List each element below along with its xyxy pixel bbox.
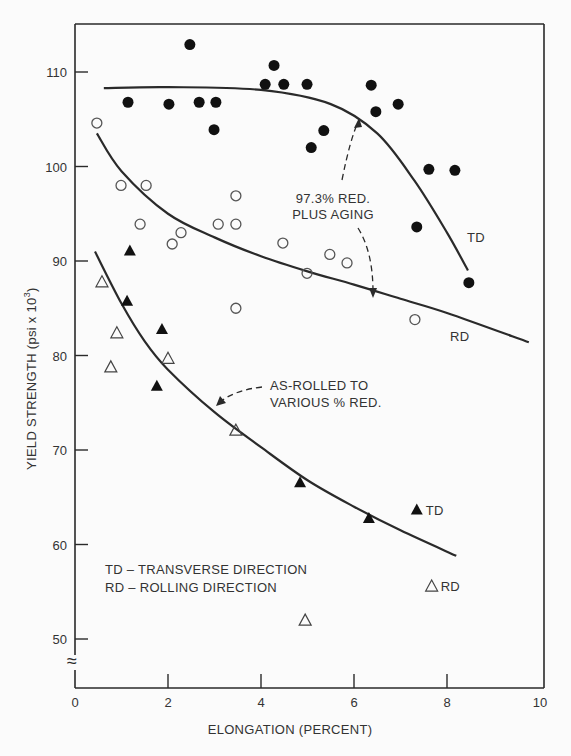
x-axis-label: ELONGATION (PERCENT) [208, 722, 373, 737]
x-tick-label: 2 [164, 695, 171, 710]
open-circle-marker [176, 228, 186, 238]
filled-circle-marker [269, 60, 280, 71]
legend-td: TD – TRANSVERSE DIRECTION [105, 562, 307, 577]
arrow-to-td-curve [342, 122, 358, 180]
filled-circle-marker [163, 99, 174, 110]
filled-circle-marker [306, 142, 317, 153]
annotation-aging-line2: PLUS AGING [292, 207, 374, 222]
filled-circle-marker [423, 164, 434, 175]
filled-circle-marker [184, 39, 195, 50]
filled-circle-marker [209, 124, 220, 135]
filled-triangle-marker [121, 295, 133, 306]
filled-triangle-marker [151, 380, 163, 391]
filled-circle-marker [393, 99, 404, 110]
filled-circle-marker [463, 277, 474, 288]
annotation-asrolled-line2: VARIOUS % RED. [270, 395, 382, 410]
open-triangle-marker [96, 276, 108, 287]
x-tick-label: 10 [533, 695, 547, 710]
open-circle-marker [213, 219, 223, 229]
legend-marker-label: RD [441, 579, 460, 594]
arrowhead [216, 396, 226, 406]
filled-circle-marker [210, 97, 221, 108]
axis-break-icon: ≈ [67, 651, 77, 671]
y-tick-label: 90 [53, 254, 67, 269]
x-tick-label: 4 [257, 695, 264, 710]
filled-circle-marker [370, 106, 381, 117]
open-circle-marker [141, 180, 151, 190]
filled-triangle-marker [156, 323, 168, 334]
y-axis-label: YIELD STRENGTH (psi x 103) [22, 287, 39, 470]
filled-circle-marker [366, 80, 377, 91]
yield-strength-chart: ≈50607080901001100246810ELONGATION (PERC… [0, 0, 571, 756]
legend-rd: RD – ROLLING DIRECTION [105, 580, 277, 595]
curve-label-rd: RD [450, 329, 469, 344]
fit-curve [104, 87, 468, 270]
open-circle-marker [231, 219, 241, 229]
y-tick-label: 100 [45, 160, 67, 175]
x-tick-label: 8 [443, 695, 450, 710]
filled-circle-marker [302, 79, 313, 90]
fit-curve [97, 133, 529, 342]
y-tick-label: 50 [53, 632, 67, 647]
open-circle-marker [231, 303, 241, 313]
filled-circle-marker [194, 97, 205, 108]
chart-text: TDRD97.3% RED.PLUS AGINGAS-ROLLED TOVARI… [105, 191, 485, 595]
filled-triangle-marker [411, 504, 423, 515]
open-triangle-marker [111, 327, 123, 338]
legend-marker-label: TD [426, 503, 444, 518]
open-triangle-marker [162, 352, 174, 363]
fit-curves [95, 87, 529, 556]
filled-circle-marker [318, 125, 329, 136]
x-tick-label: 6 [350, 695, 357, 710]
filled-circle-marker [260, 79, 271, 90]
open-triangle-marker [105, 361, 117, 372]
open-triangle-marker [299, 614, 311, 625]
y-tick-label: 60 [53, 538, 67, 553]
open-circle-marker [410, 315, 420, 325]
open-circle-marker [342, 258, 352, 268]
open-circle-marker [325, 249, 335, 259]
x-tick-label: 0 [71, 695, 78, 710]
open-circle-marker [92, 118, 102, 128]
y-tick-label: 110 [46, 65, 67, 80]
annotation-arrows [216, 118, 377, 406]
open-circle-marker [135, 219, 145, 229]
y-tick-label: 70 [53, 443, 67, 458]
filled-triangle-marker [124, 245, 136, 256]
annotation-asrolled-line1: AS-ROLLED TO [270, 378, 369, 393]
filled-circle-marker [123, 97, 134, 108]
arrow-to-asrolled-curve [220, 387, 262, 402]
filled-circle-marker [449, 165, 460, 176]
curve-label-td: TD [467, 230, 485, 245]
arrow-to-rd-curve [358, 228, 373, 292]
open-circle-marker [231, 191, 241, 201]
open-circle-marker [278, 238, 288, 248]
arrowhead [369, 288, 377, 298]
filled-circle-marker [411, 221, 422, 232]
annotation-aging-line1: 97.3% RED. [296, 191, 371, 206]
open-triangle-marker [426, 580, 438, 591]
open-circle-marker [116, 180, 126, 190]
open-circle-marker [167, 239, 177, 249]
filled-circle-marker [278, 79, 289, 90]
y-tick-label: 80 [53, 349, 67, 364]
